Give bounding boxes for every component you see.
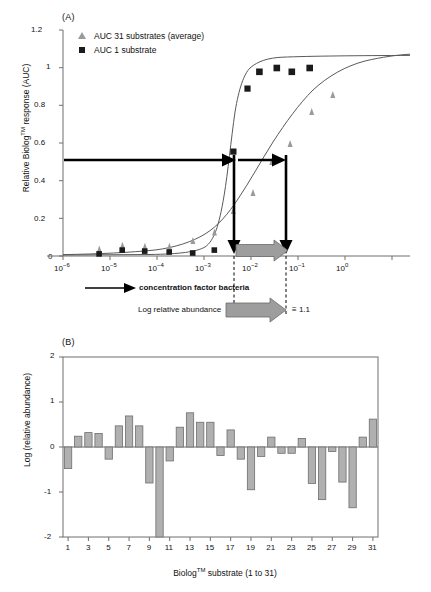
- bar-substrate-4: [95, 434, 102, 448]
- ec50-drop-arrow-single: [228, 155, 241, 254]
- panel-b-xtick-label-21: 21: [266, 543, 275, 552]
- bar-substrate-29: [349, 447, 356, 508]
- panel-b-xtick-label-7: 7: [127, 543, 131, 552]
- bar-substrate-1: [64, 447, 71, 469]
- panel-b-xtick-label-13: 13: [185, 543, 194, 552]
- bar-substrate-28: [339, 447, 346, 482]
- bar-substrate-7: [125, 416, 132, 447]
- bar-substrate-13: [186, 413, 193, 447]
- log-relative-abundance-value: ≡ 1.1: [292, 305, 310, 314]
- panel-a-plot: [0, 0, 431, 300]
- series-31-substrates-markers: [97, 91, 335, 253]
- bar-substrate-19: [247, 447, 254, 490]
- panel-b-xtick-label-17: 17: [226, 543, 235, 552]
- bar-substrate-14: [197, 422, 204, 447]
- panel-b-xtick-label-5: 5: [106, 543, 110, 552]
- concentration-factor-label: concentration factor bacteria: [139, 283, 249, 292]
- bar-substrate-30: [359, 437, 366, 447]
- bar-substrate-9: [146, 447, 153, 483]
- bar-substrate-2: [75, 436, 82, 447]
- panel-b-xtick-label-3: 3: [86, 543, 90, 552]
- bar-substrate-16: [217, 447, 224, 456]
- panel-b-bar-group: [64, 413, 376, 537]
- log-relative-abundance-arrow: [226, 298, 286, 322]
- bar-substrate-15: [207, 422, 214, 447]
- panel-b: (B) Log (relative abundance) BiologTM su…: [0, 335, 431, 592]
- concentration-factor-arrow: [85, 283, 136, 293]
- half-max-arrow-1: [64, 154, 236, 167]
- panel-b-xtick-label-29: 29: [348, 543, 357, 552]
- panel-b-xtick-label-11: 11: [165, 543, 173, 552]
- bar-substrate-5: [105, 447, 112, 459]
- bar-substrate-31: [369, 419, 376, 447]
- panel-b-xtick-label-27: 27: [327, 543, 336, 552]
- panel-b-xtick-label-15: 15: [205, 543, 214, 552]
- panel-b-xtick-marks: [68, 537, 373, 541]
- bar-substrate-17: [227, 430, 234, 447]
- panel-b-xtick-label-31: 31: [368, 543, 377, 552]
- bar-substrate-11: [166, 447, 173, 461]
- relative-abundance-arrow-inline: [236, 240, 288, 261]
- ec50-drop-arrow-average: [280, 155, 293, 254]
- half-max-arrow-2: [238, 154, 286, 167]
- bar-substrate-20: [257, 447, 264, 456]
- bar-substrate-6: [115, 426, 122, 447]
- panel-b-xtick-label-9: 9: [147, 543, 151, 552]
- bar-substrate-10: [156, 447, 163, 537]
- log-relative-abundance-label: Log relative abundance: [138, 305, 221, 314]
- bar-substrate-8: [136, 426, 143, 447]
- bar-substrate-24: [298, 438, 305, 447]
- bar-substrate-25: [308, 447, 315, 483]
- bar-substrate-12: [176, 427, 183, 447]
- bar-substrate-21: [268, 437, 275, 447]
- panel-a: (A) Relative BiologTM response (AUC) 1.2…: [0, 0, 431, 335]
- panel-b-xtick-label-23: 23: [287, 543, 296, 552]
- bar-substrate-26: [318, 447, 325, 500]
- bar-substrate-27: [329, 447, 336, 452]
- bar-substrate-23: [288, 447, 295, 453]
- panel-b-plot: [0, 335, 431, 592]
- panel-b-xtick-label-19: 19: [246, 543, 255, 552]
- bar-substrate-22: [278, 447, 285, 453]
- panel-b-xtick-label-25: 25: [307, 543, 316, 552]
- figure-container: (A) Relative BiologTM response (AUC) 1.2…: [0, 0, 431, 592]
- bar-substrate-3: [85, 433, 92, 447]
- bar-substrate-18: [237, 447, 244, 459]
- panel-b-xtick-label-1: 1: [66, 543, 70, 552]
